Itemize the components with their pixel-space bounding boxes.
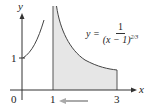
denominator-base: (x − 1) [103,34,131,45]
curve-left-branch [23,20,44,58]
shaded-region [53,6,117,90]
y-axis-label: y [18,1,23,12]
plot-area [0,0,153,109]
function-equation: y = 1 (x − 1)2/3 [86,22,138,45]
y-axis-arrowhead [20,13,25,19]
origin-label: 0 [11,94,17,105]
equation-fraction: 1 (x − 1)2/3 [103,22,139,45]
denominator-exponent: 2/3 [131,34,139,40]
y-tick-label-1: 1 [11,53,17,64]
equation-numerator: 1 [116,22,125,34]
x-tick-label-3: 3 [114,94,120,105]
direction-arrow-head [59,98,66,104]
x-axis-arrowhead [131,88,137,93]
equation-denominator: (x − 1)2/3 [103,34,139,45]
x-axis-label: x [139,84,144,95]
x-tick-label-1: 1 [50,94,56,105]
equation-lhs: y = [86,28,100,39]
